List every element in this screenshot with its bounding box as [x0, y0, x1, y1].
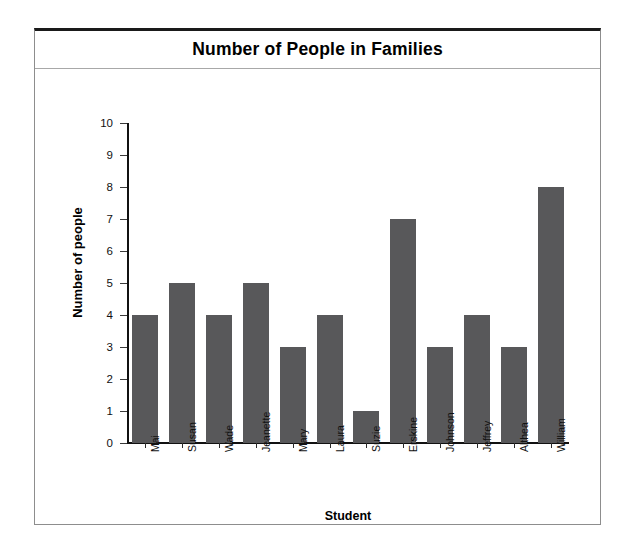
chart-title-bar: Number of People in Families [35, 31, 600, 69]
y-axis-tick [120, 315, 127, 316]
x-axis-tick-label: Susan [186, 422, 198, 452]
x-axis-tick-label: Jeanette [260, 412, 272, 452]
x-axis-tick [293, 443, 294, 448]
x-axis-tick-label: Althea [518, 422, 530, 452]
bar [206, 315, 232, 443]
y-axis-tick-label: 1 [73, 411, 113, 412]
bar [390, 219, 416, 443]
x-axis-tick-label: Mary [297, 429, 309, 452]
y-axis-tick-label: 6 [73, 251, 113, 252]
bar [538, 187, 564, 443]
y-axis-tick [120, 379, 127, 380]
y-axis-tick [120, 123, 127, 124]
y-axis-tick-label: 10 [73, 123, 113, 124]
x-axis-tick [330, 443, 331, 448]
x-axis-tick [256, 443, 257, 448]
bar [317, 315, 343, 443]
y-axis-tick [120, 187, 127, 188]
y-axis-tick [120, 347, 127, 348]
y-axis-tick-label: 4 [73, 315, 113, 316]
x-axis-title: Student [127, 509, 569, 523]
bar [132, 315, 158, 443]
y-axis-tick [120, 251, 127, 252]
x-axis-tick-label: Jeffrey [481, 421, 493, 452]
y-axis-tick-label: 0 [73, 443, 113, 444]
x-axis-tick-label: Laura [334, 425, 346, 452]
y-axis-tick-label: 2 [73, 379, 113, 380]
bars-layer [127, 123, 569, 443]
x-axis-tick [477, 443, 478, 448]
figure-frame: Number of People in Families Number of p… [34, 28, 601, 525]
page-title: Number of People in Families [192, 39, 443, 60]
y-axis-tick [120, 155, 127, 156]
y-axis-tick-label: 3 [73, 347, 113, 348]
x-axis-tick-label: Wade [223, 425, 235, 452]
x-axis-tick-label: Erskine [407, 417, 419, 452]
x-axis-tick [440, 443, 441, 448]
x-axis-tick [403, 443, 404, 448]
y-axis-tick-label: 8 [73, 187, 113, 188]
x-axis-tick [182, 443, 183, 448]
x-axis-tick [551, 443, 552, 448]
x-axis-tick-label: Mai [149, 435, 161, 452]
x-axis-tick [145, 443, 146, 448]
x-axis-tick-label: Johnson [444, 412, 456, 452]
y-axis-tick [120, 443, 127, 444]
y-axis-tick-label: 5 [73, 283, 113, 284]
plot-region: Number of people 109876543210 MaiSusanWa… [35, 69, 600, 524]
x-axis-tick [366, 443, 367, 448]
x-axis-tick [514, 443, 515, 448]
x-axis-tick [219, 443, 220, 448]
bar [169, 283, 195, 443]
y-axis-tick [120, 283, 127, 284]
y-axis-tick-label: 9 [73, 155, 113, 156]
y-axis-tick [120, 411, 127, 412]
y-axis-tick-label: 7 [73, 219, 113, 220]
x-axis-tick-label: Suzie [370, 426, 382, 452]
y-axis-tick [120, 219, 127, 220]
x-axis-tick-label: William [555, 418, 567, 452]
